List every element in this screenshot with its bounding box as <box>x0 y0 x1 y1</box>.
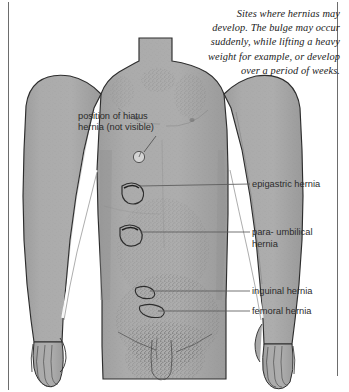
label-paraumbilical-hernia: para- umbilical hernia <box>252 227 340 250</box>
caption-line-1: Sites where hernias may <box>176 7 340 21</box>
label-femoral-hernia: femoral hernia <box>252 306 311 318</box>
caption-line-4: weight for example, or develop <box>176 50 340 64</box>
figure-caption: Sites where hernias may develop. The bul… <box>176 7 340 78</box>
caption-line-2: develop. The bulge may occur <box>176 21 340 35</box>
hernia-sites-figure: Sites where hernias may develop. The bul… <box>0 0 349 392</box>
caption-line-5: over a period of weeks. <box>176 64 340 78</box>
label-hiatus-line-1: position of hiatus <box>78 111 154 122</box>
caption-line-3: suddenly, while lifting a heavy <box>176 35 340 49</box>
label-epigastric-hernia: epigastric hernia <box>252 179 320 191</box>
label-hiatus-hernia: position of hiatus hernia (not visible) <box>78 111 154 134</box>
label-hiatus-line-2: hernia (not visible) <box>78 122 154 133</box>
right-arm <box>224 75 303 344</box>
label-inguinal-hernia: inguinal hernia <box>252 286 312 298</box>
left-hand <box>31 338 66 387</box>
